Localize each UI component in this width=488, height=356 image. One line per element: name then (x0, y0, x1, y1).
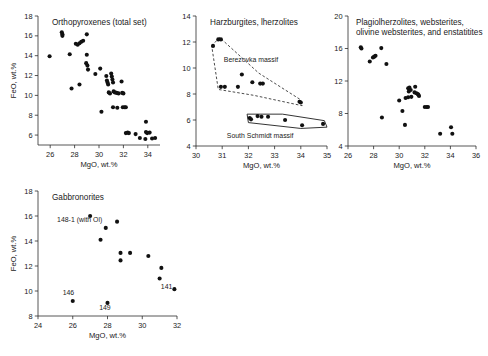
x-tick-label: 28 (70, 150, 78, 159)
panel-title: Gabbronorites (52, 193, 104, 202)
data-point (146, 254, 150, 258)
data-point (104, 74, 108, 78)
data-point (118, 258, 122, 262)
y-tick-label: 14 (24, 51, 32, 60)
x-tick-label: 36 (472, 151, 480, 160)
data-point (403, 123, 407, 127)
x-axis-title: MgO, wt.% (243, 161, 280, 170)
data-point (159, 266, 163, 270)
y-tick-label: 6 (186, 116, 190, 125)
x-tick-label: 31 (218, 151, 226, 160)
data-point (384, 62, 388, 66)
annotation-label: Berezovka massif (224, 56, 278, 63)
data-point (249, 117, 253, 121)
data-point (81, 39, 85, 43)
panel-title: Harzburgites, lherzolites (210, 18, 298, 27)
x-tick-label: 26 (344, 151, 352, 160)
figure-canvas: 6810121416182628303234MgO, wt.%FeO, wt.%… (0, 0, 488, 356)
data-point (143, 137, 147, 141)
data-point (450, 132, 454, 136)
x-tick-label: 26 (69, 321, 77, 330)
annotation-label: 149 (99, 304, 111, 311)
x-tick-label: 30 (395, 151, 403, 160)
y-tick-label: 18 (24, 12, 32, 21)
y-tick-label: 12 (182, 38, 190, 47)
y-tick-label: 8 (28, 111, 32, 120)
data-point (409, 95, 413, 99)
data-point (120, 79, 124, 83)
data-point (138, 136, 142, 140)
data-point (256, 114, 260, 118)
panel-plagiolherzolites-websterites: 48121620262830323436MgO, wt.%Plagiolherz… (334, 12, 482, 170)
data-point (85, 53, 89, 57)
x-tick-label: 32 (173, 321, 181, 330)
data-point (108, 91, 112, 95)
data-point (85, 64, 89, 68)
panel-orthopyroxenes: 6810121416182628303234MgO, wt.%FeO, wt.%… (9, 12, 160, 169)
data-point (397, 98, 401, 102)
data-point (148, 131, 152, 135)
data-point (417, 94, 421, 98)
data-point (93, 72, 97, 76)
y-tick-label: 18 (24, 187, 32, 196)
y-tick-label: 16 (24, 31, 32, 40)
data-point (373, 54, 377, 58)
data-point (283, 118, 287, 122)
x-tick-label: 28 (369, 151, 377, 160)
y-axis-title: FeO, wt.% (9, 63, 18, 99)
data-point (118, 251, 122, 255)
x-axis-title: MgO, wt.% (89, 331, 126, 340)
data-point (48, 54, 52, 58)
data-point (368, 59, 372, 63)
data-point (413, 85, 417, 89)
x-tick-label: 30 (95, 150, 103, 159)
data-point (134, 132, 138, 136)
x-tick-label: 33 (270, 151, 278, 160)
y-tick-label: 14 (182, 12, 190, 21)
y-tick-label: 12 (24, 262, 32, 271)
data-point (261, 82, 265, 86)
x-tick-label: 30 (138, 321, 146, 330)
x-axis-title: MgO, wt.% (80, 160, 117, 169)
y-tick-label: 10 (24, 91, 32, 100)
data-point (404, 96, 408, 100)
y-tick-label: 4 (338, 142, 342, 151)
annotation-label: South Schmidt massif (227, 132, 294, 139)
data-point (299, 100, 303, 104)
data-point (127, 131, 131, 135)
data-point (172, 287, 176, 291)
y-tick-label: 10 (24, 287, 32, 296)
x-tick-label: 32 (244, 151, 252, 160)
data-point (153, 136, 157, 140)
data-point (99, 238, 103, 242)
data-point (266, 115, 270, 119)
annotation-label: 146 (63, 289, 75, 296)
data-point (380, 116, 384, 120)
panel-title: Orthopyroxenes (total set) (52, 18, 147, 27)
x-tick-label: 34 (297, 151, 305, 160)
y-tick-label: 16 (24, 212, 32, 221)
data-point (144, 120, 148, 124)
data-point (124, 105, 128, 109)
data-point (71, 299, 75, 303)
data-point (379, 46, 383, 50)
data-point (111, 105, 115, 109)
y-tick-label: 8 (338, 109, 342, 118)
y-tick-label: 10 (182, 64, 190, 73)
x-tick-label: 32 (421, 151, 429, 160)
x-tick-label: 34 (446, 151, 454, 160)
y-tick-label: 12 (334, 77, 342, 86)
x-tick-label: 30 (192, 151, 200, 160)
scatter-plot-figure: 6810121416182628303234MgO, wt.%FeO, wt.%… (0, 0, 488, 356)
data-point (121, 91, 125, 95)
y-tick-label: 20 (334, 12, 342, 21)
x-tick-label: 32 (119, 150, 127, 159)
y-tick-label: 8 (186, 90, 190, 99)
data-point (409, 88, 413, 92)
data-point (300, 123, 304, 127)
field-outline (212, 37, 302, 105)
y-tick-label: 4 (186, 142, 190, 151)
data-point (426, 105, 430, 109)
data-point (438, 132, 442, 136)
data-point (250, 80, 254, 84)
